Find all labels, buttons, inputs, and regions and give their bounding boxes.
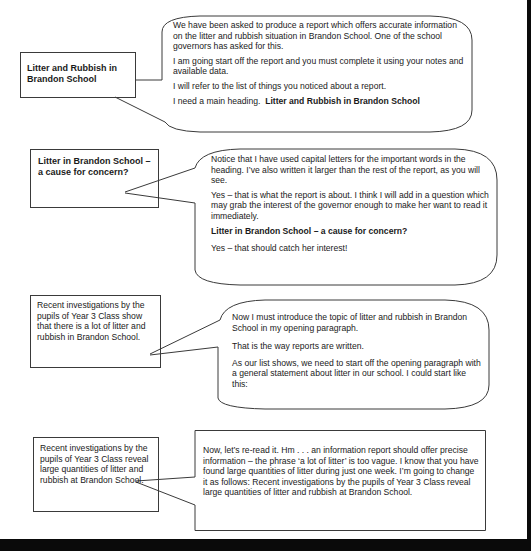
paragraph: We have been asked to produce a report w… <box>173 20 468 52</box>
subheading-example: Litter in Brandon School – a cause for c… <box>211 226 494 237</box>
paragraph: Now, let’s re-read it. Hm . . . an infor… <box>203 445 481 498</box>
bubble-text-1: We have been asked to produce a report w… <box>173 20 468 110</box>
note-heading-1: Litter and Rubbish in Brandon School <box>27 63 132 85</box>
paragraph: Now I must introduce the topic of litter… <box>232 312 482 333</box>
main-heading-example: Litter and Rubbish in Brandon School <box>265 96 420 106</box>
page-edge-right <box>527 0 531 551</box>
paragraph: I am going start off the report and you … <box>173 56 468 77</box>
paragraph: As our list shows, we need to start off … <box>232 358 482 390</box>
paragraph-text: I need a main heading. <box>173 96 260 106</box>
bubble-text-3: Now I must introduce the topic of litter… <box>232 312 482 394</box>
paragraph: I need a main heading. Litter and Rubbis… <box>173 96 468 107</box>
paragraph: Notice that I have used capital letters … <box>211 154 494 186</box>
bubble-text-2: Notice that I have used capital letters … <box>211 154 494 258</box>
paragraph: Yes – that should catch her interest! <box>211 243 494 254</box>
note-text-3: Recent investigations by the pupils of Y… <box>37 300 157 342</box>
paragraph: That is the way reports are written. <box>232 341 482 352</box>
note-heading-2: Litter in Brandon School – a cause for c… <box>38 156 153 178</box>
bubble-text-4: Now, let’s re-read it. Hm . . . an infor… <box>203 445 481 502</box>
paragraph: I will refer to the list of things you n… <box>173 81 468 92</box>
page-edge-bottom <box>0 539 531 551</box>
note-text-4: Recent investigations by the pupils of Y… <box>40 443 158 485</box>
paragraph: Yes – that is what the report is about. … <box>211 190 494 222</box>
